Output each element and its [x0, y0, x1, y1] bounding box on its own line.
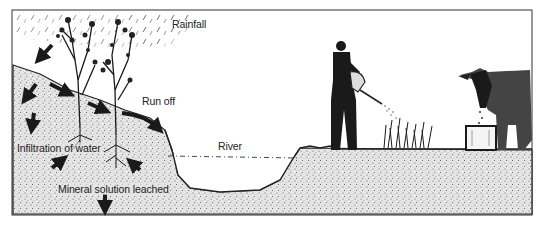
infiltrate-arrow-2	[32, 113, 34, 127]
diagram-canvas	[0, 0, 544, 230]
label-infiltration: Infiltration of water	[17, 142, 101, 154]
label-run-off: Run off	[142, 95, 175, 107]
trough	[466, 126, 496, 150]
label-rainfall: Rainfall	[172, 18, 206, 30]
label-river: River	[218, 140, 242, 152]
label-mineral: Mineral solution leached	[58, 183, 169, 195]
